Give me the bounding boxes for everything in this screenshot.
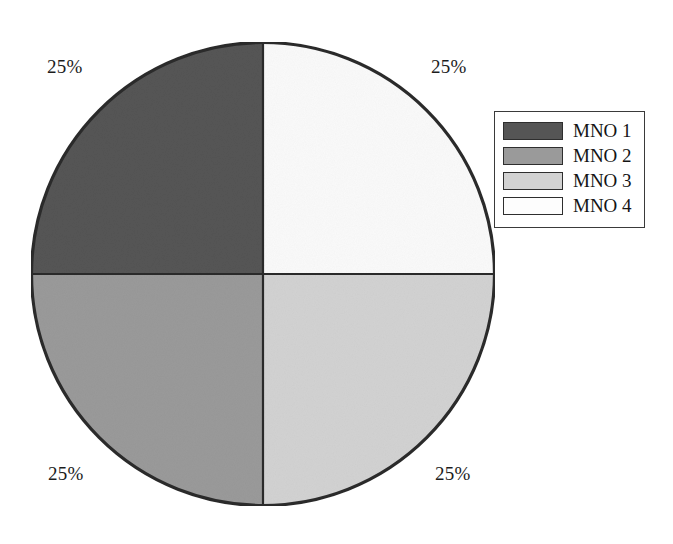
- pie-chart-graphic: [31, 42, 495, 507]
- slice-label-mno-3: 25%: [435, 463, 470, 485]
- legend-item-mno-3[interactable]: MNO 3: [503, 168, 637, 193]
- legend-label-mno-1: MNO 1: [573, 121, 632, 140]
- legend-item-mno-1[interactable]: MNO 1: [503, 118, 637, 143]
- legend-label-mno-2: MNO 2: [573, 146, 632, 165]
- legend-label-mno-4: MNO 4: [573, 196, 632, 215]
- legend-swatch-mno-2: [503, 147, 563, 165]
- chart-legend: MNO 1 MNO 2 MNO 3 MNO 4: [494, 111, 645, 228]
- legend-item-mno-4[interactable]: MNO 4: [503, 193, 637, 218]
- legend-label-mno-3: MNO 3: [573, 171, 632, 190]
- legend-item-mno-2[interactable]: MNO 2: [503, 143, 637, 168]
- slice-label-mno-1: 25%: [47, 56, 82, 78]
- legend-swatch-mno-3: [503, 172, 563, 190]
- slice-label-mno-4: 25%: [431, 56, 466, 78]
- pie-svg: [31, 42, 495, 507]
- slice-label-mno-2: 25%: [48, 463, 83, 485]
- pie-chart-figure: 25% 25% 25% 25% MNO 1 MNO 2 MNO 3 MNO 4: [0, 0, 673, 544]
- legend-swatch-mno-1: [503, 122, 563, 140]
- legend-swatch-mno-4: [503, 197, 563, 215]
